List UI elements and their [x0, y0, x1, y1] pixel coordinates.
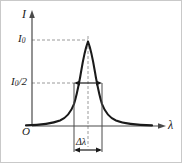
- half-width-arrowhead-left-icon: [74, 81, 80, 86]
- spectral-line-figure: I λ I0 I0/2 O Δλ: [0, 0, 182, 163]
- x-axis-arrowhead-icon: [158, 123, 166, 129]
- y-tick-label-half-intensity: I0/2: [11, 76, 27, 88]
- half-intensity-suffix: /2: [18, 75, 27, 87]
- plot-canvas: [0, 0, 182, 163]
- y-axis-label: I: [22, 8, 26, 20]
- half-width-arrowhead-right-icon: [96, 81, 102, 86]
- delta-lambda-arrowhead-right-icon: [96, 148, 102, 153]
- delta-lambda-arrowhead-left-icon: [74, 148, 80, 153]
- line-width-label: Δλ: [76, 137, 86, 147]
- peak-intensity-subscript: 0: [22, 36, 26, 45]
- origin-label: O: [22, 126, 30, 137]
- y-tick-label-peak-intensity: I0: [18, 33, 25, 45]
- x-axis-label: λ: [168, 119, 173, 131]
- y-axis-arrowhead-icon: [29, 10, 35, 18]
